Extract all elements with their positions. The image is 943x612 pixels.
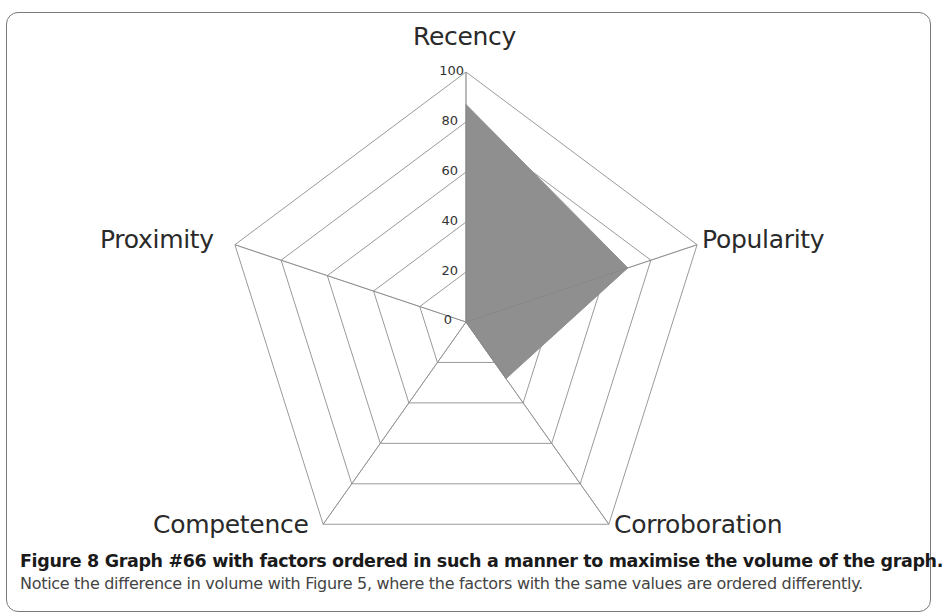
- tick-label-40: 40: [428, 213, 458, 228]
- tick-label-0: 0: [422, 312, 452, 327]
- axis-spoke-overlay: [323, 322, 466, 524]
- tick-label-80: 80: [428, 113, 458, 128]
- caption-body: Notice the difference in volume with Fig…: [20, 574, 925, 593]
- axis-spoke-overlay: [235, 245, 466, 322]
- figure-caption: Figure 8 Graph #66 with factors ordered …: [20, 551, 925, 593]
- axis-label-popularity: Popularity: [702, 225, 824, 254]
- axis-spoke-overlay: [466, 322, 609, 524]
- tick-label-60: 60: [428, 163, 458, 178]
- axis-label-corroboration: Corroboration: [614, 510, 782, 539]
- axis-label-proximity: Proximity: [100, 225, 214, 254]
- tick-label-100: 100: [434, 63, 464, 78]
- radar-series-area: [466, 105, 628, 379]
- tick-label-20: 20: [428, 263, 458, 278]
- caption-title: Figure 8 Graph #66 with factors ordered …: [20, 551, 925, 571]
- axis-label-competence: Competence: [153, 510, 309, 539]
- axis-label-recency: Recency: [413, 22, 516, 51]
